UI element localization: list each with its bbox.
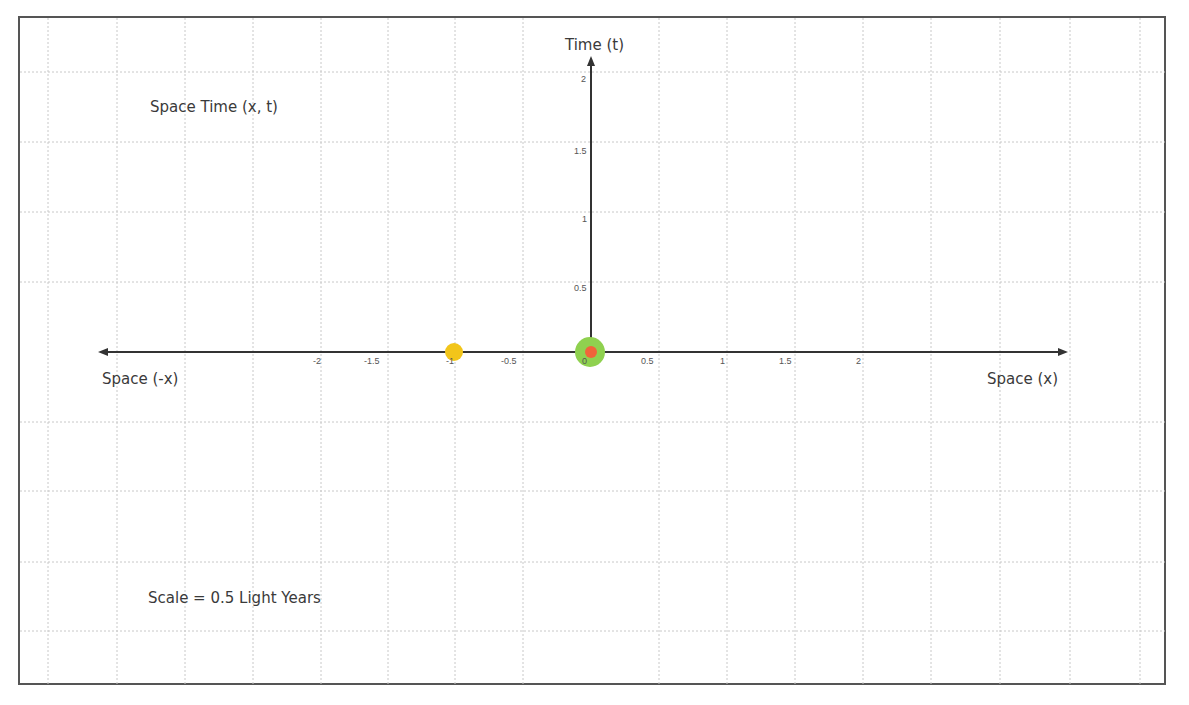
time-axis-label: Time (t) [565, 36, 624, 54]
space-negative-label: Space (-x) [102, 370, 178, 388]
x-tick: -1 [446, 356, 454, 366]
diagram-title: Space Time (x, t) [150, 98, 278, 116]
scale-annotation: Scale = 0.5 Light Years [148, 589, 321, 607]
x-tick: -0.5 [501, 356, 517, 366]
y-tick: 1 [582, 214, 587, 224]
x-tick: -1.5 [364, 356, 380, 366]
y-axis [587, 56, 595, 352]
x-tick: 0 [582, 356, 587, 366]
x-tick: 0.5 [641, 356, 654, 366]
x-tick: 1 [720, 356, 725, 366]
x-tick: 2 [856, 356, 861, 366]
x-tick: 1.5 [779, 356, 792, 366]
space-positive-label: Space (x) [987, 370, 1058, 388]
x-tick: -2 [313, 356, 321, 366]
y-tick: 1.5 [574, 146, 587, 156]
y-tick: 2 [581, 74, 586, 84]
y-tick: 0.5 [574, 283, 587, 293]
